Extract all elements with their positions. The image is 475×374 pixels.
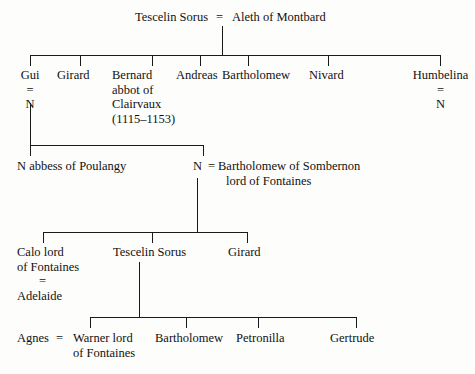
connector-tick-andreas	[200, 55, 201, 66]
person-agnes: Agnes	[17, 331, 49, 346]
person-gertrude: Gertrude	[330, 331, 374, 346]
person-name: Tescelin Sorus	[113, 245, 186, 260]
connector-horizontal-gen1	[30, 55, 441, 56]
connector-tick-calo	[43, 232, 44, 243]
person-girard-2: Girard	[228, 245, 261, 260]
person-tescelin-sorus-top: Tescelin Sorus	[135, 10, 208, 25]
connector-horizontal-gen3	[43, 232, 248, 233]
person-humbelina-spouse: N	[406, 97, 475, 112]
person-andreas: Andreas	[176, 68, 218, 83]
person-name: Bernard	[112, 68, 175, 83]
person-bartholomew-1: Bartholomew	[222, 68, 290, 83]
person-title-line-1: abbot of	[112, 83, 175, 98]
person-name: N	[193, 159, 202, 174]
person-warner-lord-of-fontaines: Warner lord of Fontaines	[73, 331, 135, 360]
person-n-abbess-of-poulangy: N abbess of Poulangy	[17, 159, 126, 174]
connector-tick-gui	[30, 55, 31, 66]
person-calo-lord-of-fontaines: Calo lord of Fontaines = Adelaide	[17, 245, 79, 303]
person-name: Girard	[228, 245, 261, 260]
person-tescelin-sorus-mid: Tescelin Sorus	[113, 245, 186, 260]
person-aleth-of-montbard: Aleth of Montbard	[232, 10, 326, 25]
person-bartholomew-2: Bartholomew	[155, 331, 223, 346]
connector-tick-nivard	[328, 55, 329, 66]
marriage-symbol-humbelina: =	[406, 83, 475, 98]
marriage-symbol-n-sombernon: =	[208, 159, 215, 174]
person-name: N abbess of Poulangy	[17, 159, 126, 174]
person-name: Aleth of Montbard	[232, 10, 326, 25]
person-name: Warner lord	[73, 331, 135, 346]
person-title: of Fontaines	[73, 346, 135, 361]
genealogy-chart: Tescelin Sorus = Aleth of Montbard Gui =…	[0, 0, 475, 374]
connector-tick-girard-1	[80, 55, 81, 66]
person-adelaide: Adelaide	[17, 289, 79, 304]
person-name: Girard	[57, 68, 90, 83]
person-girard-1: Girard	[57, 68, 90, 83]
connector-vertical-gui-to-gen2	[30, 103, 31, 145]
connector-vertical-gen3-to-gen4	[139, 262, 140, 317]
person-name: Agnes	[17, 331, 49, 346]
connector-tick-n-abbess	[30, 145, 31, 156]
connector-tick-bernard	[152, 55, 153, 66]
person-name: Gui	[10, 68, 50, 83]
connector-tick-gertrude	[356, 317, 357, 328]
connector-tick-warner	[90, 317, 91, 328]
connector-tick-tescelin-sorus-2	[152, 232, 153, 243]
marriage-symbol-calo: =	[17, 274, 79, 289]
person-name: Calo lord	[17, 245, 79, 260]
connector-horizontal-gen4	[90, 317, 357, 318]
person-name: Andreas	[176, 68, 218, 83]
person-name: Bartholomew of Sombernon	[218, 159, 360, 174]
person-bartholomew-of-sombernon: Bartholomew of Sombernon lord of Fontain…	[218, 159, 360, 188]
marriage-symbol-top: =	[216, 10, 223, 25]
connector-horizontal-gen2	[30, 145, 204, 146]
person-title: of Fontaines	[17, 260, 79, 275]
connector-tick-girard-2	[247, 232, 248, 243]
person-name: Humbelina	[406, 68, 475, 83]
person-petronilla: Petronilla	[236, 331, 285, 346]
person-name: Bartholomew	[222, 68, 290, 83]
person-humbelina: Humbelina = N	[406, 68, 475, 112]
person-nivard: Nivard	[309, 68, 344, 83]
connector-tick-humbelina	[440, 55, 441, 66]
connector-tick-bartholomew-1	[248, 55, 249, 66]
marriage-symbol-agnes: =	[56, 331, 63, 346]
person-name: Gertrude	[330, 331, 374, 346]
connector-tick-petronilla	[258, 317, 259, 328]
marriage-symbol-gui: =	[10, 83, 50, 98]
person-title-line-2: Clairvaux	[112, 97, 175, 112]
person-bernard-of-clairvaux: Bernard abbot of Clairvaux (1115–1153)	[112, 68, 175, 126]
person-dates: (1115–1153)	[112, 112, 175, 127]
connector-vertical-gen2-to-gen3	[197, 178, 198, 232]
connector-vertical-gen0-to-gen1	[222, 26, 223, 55]
person-name: Nivard	[309, 68, 344, 83]
person-n-sombernon: N	[193, 159, 202, 174]
person-name: Bartholomew	[155, 331, 223, 346]
person-name: Petronilla	[236, 331, 285, 346]
connector-tick-n-sombernon	[203, 145, 204, 156]
person-title: lord of Fontaines	[218, 174, 360, 189]
person-name: Tescelin Sorus	[135, 10, 208, 25]
connector-tick-bartholomew-2	[186, 317, 187, 328]
